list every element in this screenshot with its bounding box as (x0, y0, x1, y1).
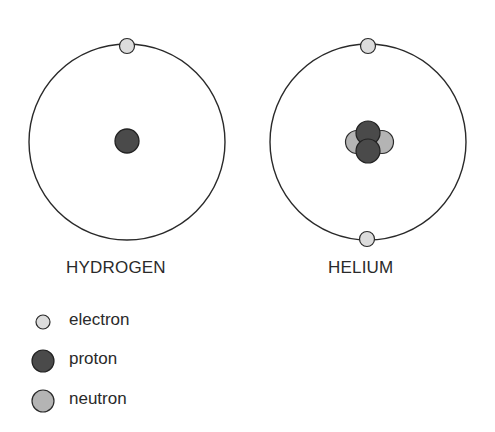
legend-electron-label: electron (69, 310, 129, 330)
helium-electron-bottom (360, 232, 375, 247)
hydrogen-label: HYDROGEN (66, 258, 166, 278)
electron-legend-icon (36, 315, 50, 329)
neutron-legend-icon (32, 390, 54, 412)
legend-proton-label: proton (69, 349, 117, 369)
helium-label: HELIUM (328, 258, 393, 278)
helium-electron-top (361, 39, 376, 54)
hydrogen-atom (29, 39, 225, 241)
hydrogen-proton (115, 129, 139, 153)
legend-neutron-label: neutron (69, 389, 127, 409)
helium-proton-bottom (356, 139, 380, 163)
proton-legend-icon (32, 350, 54, 372)
hydrogen-electron (120, 39, 135, 54)
helium-atom (270, 39, 466, 247)
